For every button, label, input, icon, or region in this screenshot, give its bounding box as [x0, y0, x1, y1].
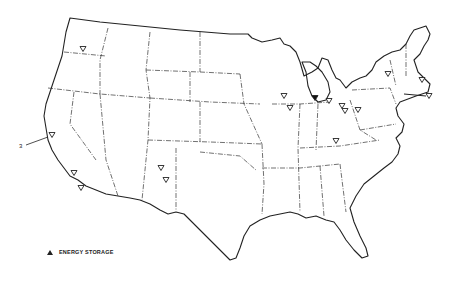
storage-site-marker-wi: [281, 94, 287, 99]
legend: ENERGY STORAGE: [47, 249, 114, 255]
storage-site-marker-oh-3: [342, 109, 348, 114]
storage-site-marker-ca-south-1: [71, 171, 77, 176]
storage-site-marker-wa: [80, 47, 86, 52]
storage-site-marker-ca-south-2: [78, 186, 84, 191]
storage-site-marker-mi: [312, 96, 318, 101]
us-outline: [44, 18, 430, 260]
storage-site-marker-oh-2: [339, 104, 345, 109]
storage-site-marker-pa: [355, 108, 361, 113]
callout-arrow: [26, 137, 48, 145]
state-borders: [48, 28, 406, 216]
triangle-icon: [47, 250, 53, 255]
callout-label: 3: [19, 143, 22, 149]
storage-site-marker-il: [287, 106, 293, 111]
legend-label: ENERGY STORAGE: [59, 249, 114, 255]
storage-site-marker-oh-1: [326, 99, 332, 104]
storage-site-marker-nm-2: [163, 178, 169, 183]
storage-site-marker-ky: [333, 139, 339, 144]
storage-site-marker-ma: [419, 78, 425, 83]
storage-site-marker-ca-north: [49, 133, 55, 138]
storage-site-marker-ny: [385, 72, 391, 77]
storage-site-marker-nm-1: [158, 166, 164, 171]
storage-site-marker-ri-offshore: [426, 94, 432, 99]
energy-storage-markers: [49, 47, 432, 191]
